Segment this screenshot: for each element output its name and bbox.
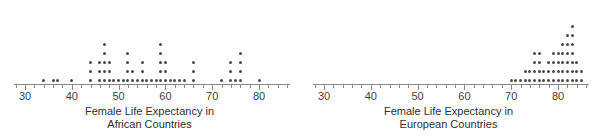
data-dot bbox=[561, 61, 564, 64]
x-axis-line-african bbox=[14, 84, 290, 85]
x-axis-minor-tick bbox=[222, 85, 223, 88]
data-dot bbox=[547, 79, 550, 82]
x-axis-minor-tick bbox=[16, 85, 17, 88]
x-axis-tick-label: 80 bbox=[253, 90, 265, 102]
x-axis-minor-tick bbox=[109, 85, 110, 88]
axis-title-line-1: Female Life Expectancy in bbox=[299, 105, 598, 118]
data-dot bbox=[159, 52, 162, 55]
x-axis-minor-tick bbox=[502, 85, 503, 88]
data-dot bbox=[192, 70, 195, 73]
plot-area-european bbox=[299, 0, 598, 84]
x-axis-tick-label: 30 bbox=[19, 90, 31, 102]
data-dot bbox=[103, 61, 106, 64]
data-dot bbox=[98, 70, 101, 73]
data-dot bbox=[108, 61, 111, 64]
data-dot bbox=[52, 79, 55, 82]
data-dot bbox=[103, 79, 106, 82]
data-dot bbox=[557, 61, 560, 64]
data-dot bbox=[528, 70, 531, 73]
x-axis-minor-tick bbox=[446, 85, 447, 88]
data-dot bbox=[145, 79, 148, 82]
x-axis-tick-label: 40 bbox=[365, 90, 377, 102]
x-axis-minor-tick bbox=[53, 85, 54, 88]
data-dot bbox=[561, 52, 564, 55]
data-dot bbox=[580, 79, 583, 82]
x-axis-minor-tick bbox=[492, 85, 493, 88]
data-dot bbox=[155, 79, 158, 82]
data-dot bbox=[126, 70, 129, 73]
data-dot bbox=[150, 79, 153, 82]
x-axis-tick-label: 40 bbox=[66, 90, 78, 102]
x-axis-minor-tick bbox=[567, 85, 568, 88]
x-axis-minor-tick bbox=[455, 85, 456, 88]
axis-title-line-1: Female Life Expectancy in bbox=[0, 105, 299, 118]
plot-area-african bbox=[0, 0, 299, 84]
x-axis-tick-label: 70 bbox=[206, 90, 218, 102]
axis-title-line-2: African Countries bbox=[0, 118, 299, 131]
data-dot bbox=[117, 79, 120, 82]
data-dot bbox=[575, 70, 578, 73]
x-axis-tick-label: 60 bbox=[458, 90, 470, 102]
x-axis-minor-tick bbox=[436, 85, 437, 88]
data-dot bbox=[571, 70, 574, 73]
data-dot bbox=[575, 79, 578, 82]
x-axis-minor-tick bbox=[577, 85, 578, 88]
data-dot bbox=[519, 79, 522, 82]
x-axis-minor-tick bbox=[483, 85, 484, 88]
x-axis-minor-tick bbox=[268, 85, 269, 88]
data-dot bbox=[538, 70, 541, 73]
x-axis-minor-tick bbox=[175, 85, 176, 88]
data-dot bbox=[164, 79, 167, 82]
x-axis-minor-tick bbox=[137, 85, 138, 88]
data-dot bbox=[141, 79, 144, 82]
data-dot bbox=[70, 79, 73, 82]
x-axis-minor-tick bbox=[361, 85, 362, 88]
data-dot bbox=[126, 61, 129, 64]
x-axis-minor-tick bbox=[203, 85, 204, 88]
x-axis-minor-tick bbox=[287, 85, 288, 88]
data-dot bbox=[571, 79, 574, 82]
data-dot bbox=[538, 52, 541, 55]
data-dot bbox=[566, 79, 569, 82]
data-dot bbox=[112, 79, 115, 82]
data-dot bbox=[510, 79, 513, 82]
x-axis-minor-tick bbox=[427, 85, 428, 88]
x-axis-minor-tick bbox=[380, 85, 381, 88]
data-dot bbox=[557, 70, 560, 73]
x-axis-minor-tick bbox=[278, 85, 279, 88]
data-dot bbox=[108, 79, 111, 82]
data-dot bbox=[538, 79, 541, 82]
data-dot bbox=[533, 70, 536, 73]
x-axis-minor-tick bbox=[34, 85, 35, 88]
data-dot bbox=[538, 61, 541, 64]
data-dot bbox=[229, 61, 232, 64]
x-axis-minor-tick bbox=[399, 85, 400, 88]
x-axis-minor-tick bbox=[539, 85, 540, 88]
dotplot-figure: Female Life Expectancy in African Countr… bbox=[0, 0, 598, 136]
data-dot bbox=[547, 61, 550, 64]
data-dot bbox=[524, 79, 527, 82]
data-dot bbox=[528, 79, 531, 82]
data-dot bbox=[258, 79, 261, 82]
x-axis-minor-tick bbox=[184, 85, 185, 88]
x-axis-tick-label: 70 bbox=[505, 90, 517, 102]
x-axis-minor-tick bbox=[530, 85, 531, 88]
data-dot bbox=[229, 70, 232, 73]
data-dot bbox=[552, 79, 555, 82]
data-dot bbox=[239, 79, 242, 82]
data-dot bbox=[239, 52, 242, 55]
x-axis-minor-tick bbox=[91, 85, 92, 88]
data-dot bbox=[571, 52, 574, 55]
x-axis-minor-tick bbox=[231, 85, 232, 88]
x-axis-minor-tick bbox=[343, 85, 344, 88]
x-axis-tick-label: 60 bbox=[159, 90, 171, 102]
x-axis-minor-tick bbox=[81, 85, 82, 88]
x-axis-tick-label: 30 bbox=[318, 90, 330, 102]
data-dot bbox=[183, 79, 186, 82]
data-dot bbox=[103, 70, 106, 73]
data-dot bbox=[126, 52, 129, 55]
data-dot bbox=[164, 61, 167, 64]
data-dot bbox=[552, 52, 555, 55]
x-axis-minor-tick bbox=[352, 85, 353, 88]
data-dot bbox=[159, 61, 162, 64]
